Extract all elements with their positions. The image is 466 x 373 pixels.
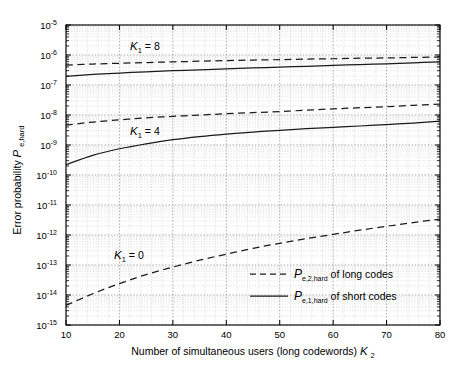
- x-tick-label: 60: [328, 329, 339, 340]
- figure-background: [0, 0, 466, 373]
- x-tick-label: 30: [168, 329, 179, 340]
- y-axis-title-subscript: e,hard: [17, 126, 26, 147]
- x-tick-label: 20: [114, 329, 125, 340]
- x-axis-title-symbol: K: [360, 345, 369, 357]
- x-tick-label: 70: [381, 329, 392, 340]
- x-tick-label: 40: [221, 329, 232, 340]
- x-axis-title-subscript: 2: [371, 351, 375, 360]
- x-tick-label: 80: [435, 329, 446, 340]
- y-axis-title-main: Error probability: [11, 160, 23, 235]
- x-tick-label: 50: [274, 329, 285, 340]
- figure-root: 10-510-610-710-810-910-1010-1110-1210-13…: [0, 0, 466, 373]
- x-tick-label: 10: [61, 329, 72, 340]
- y-axis-title-symbol: P: [11, 149, 23, 157]
- x-axis-title-main: Number of simultaneous users (long codew…: [131, 345, 357, 357]
